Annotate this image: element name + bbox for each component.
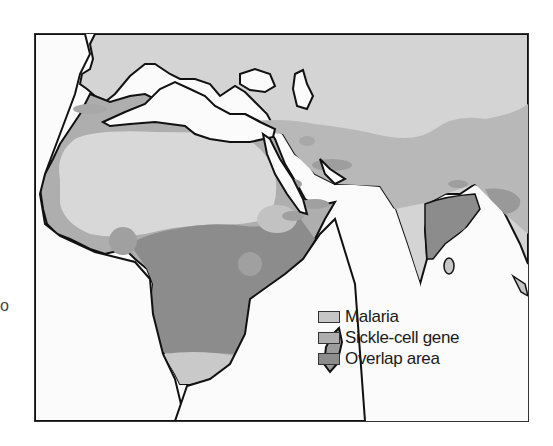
sri-lanka-island <box>444 258 454 274</box>
spain-patch <box>73 104 107 114</box>
legend-item-overlap: Overlap area <box>318 348 459 369</box>
east-africa-light-patch <box>238 252 262 276</box>
sahara-malaria-zone <box>59 131 276 236</box>
map-legend: Malaria Sickle-cell gene Overlap area <box>318 306 459 369</box>
legend-item-malaria: Malaria <box>318 306 459 327</box>
overlap-swatch <box>318 353 340 365</box>
north-india-patch <box>448 180 468 188</box>
stray-text-fragment: o <box>0 298 9 314</box>
central-africa-light-patch <box>109 227 137 255</box>
legend-label: Malaria <box>345 307 399 327</box>
sickle-cell-swatch <box>318 332 340 344</box>
legend-item-sickle-cell: Sickle-cell gene <box>318 327 459 348</box>
legend-label: Sickle-cell gene <box>345 328 459 348</box>
malaria-swatch <box>318 311 340 323</box>
anatolia-patch <box>299 136 315 146</box>
legend-label: Overlap area <box>345 349 440 369</box>
